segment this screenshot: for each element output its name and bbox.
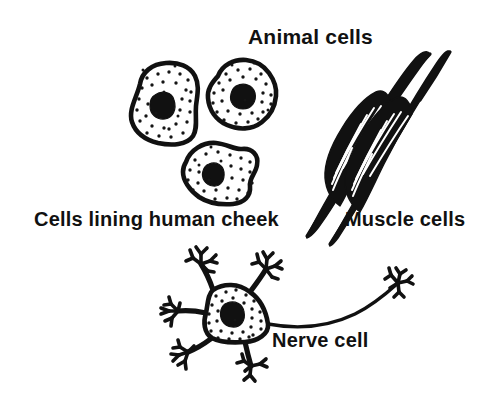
cheek-cell-3-nucleus — [202, 163, 224, 186]
muscle-cells-label: Muscle cells — [345, 208, 465, 230]
nerve-cell-label: Nerve cell — [272, 329, 369, 351]
dendrite-stem-3 — [178, 311, 206, 313]
cheek-cell-2-nucleus — [231, 84, 256, 109]
cheek-cell-1-nucleus — [150, 92, 175, 119]
figure-title: Animal cells — [248, 25, 373, 48]
figure-canvas: Animal cells — [0, 0, 490, 414]
animal-cells-figure: Animal cells — [0, 0, 490, 414]
cheek-cells-label: Cells lining human cheek — [34, 208, 280, 230]
cheek-cell-1 — [131, 63, 198, 145]
cheek-cell-3 — [183, 143, 257, 204]
nerve-cell-nucleus — [220, 302, 244, 327]
